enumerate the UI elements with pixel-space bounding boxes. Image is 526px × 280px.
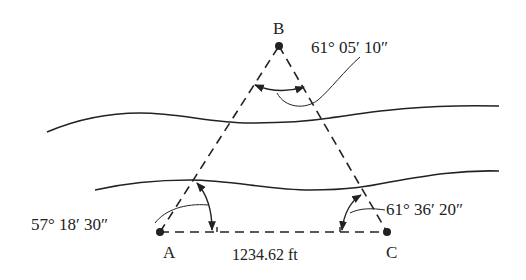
point-C-label: C — [386, 243, 397, 262]
angle-arc-B — [255, 85, 304, 91]
point-B-label: B — [273, 19, 284, 38]
baseline-distance-label: 1234.62 ft — [232, 246, 298, 263]
angle-A-label: 57° 18′ 30″ — [31, 215, 108, 234]
river-bank-lower — [95, 171, 499, 190]
point-C-marker — [383, 228, 391, 236]
river-bank-upper — [47, 106, 499, 132]
side-AB — [160, 46, 279, 232]
leader-C — [350, 209, 385, 213]
angle-arc-A — [197, 183, 212, 230]
side-BC — [279, 46, 387, 232]
angle-B-label: 61° 05′ 10″ — [311, 38, 388, 57]
point-A-marker — [156, 228, 164, 236]
point-A-label: A — [163, 243, 176, 262]
point-B-marker — [275, 42, 283, 50]
angle-C-label: 61° 36′ 20″ — [386, 200, 463, 219]
triangulation-diagram: B A C 61° 05′ 10″ 57° 18′ 30″ 61° 36′ 20… — [0, 0, 526, 280]
leader-A — [155, 205, 208, 223]
